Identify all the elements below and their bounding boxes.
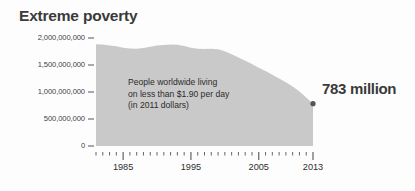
chart-annotation: People worldwide living on less than $1.… [128,77,229,112]
y-axis-tick-label: 2,000,000,000 [11,33,85,42]
y-axis-ticks [88,38,94,146]
y-axis-tick-label: 1,000,000,000 [11,87,85,96]
x-axis [96,152,313,160]
y-axis-tick-label: 1,500,000,000 [11,60,85,69]
x-axis-tick-label: 2005 [249,162,269,172]
annotation-line-2: on less than $1.90 per day [128,89,229,101]
endpoint-marker-dot [310,101,315,106]
callout-value-label: 783 million [322,80,396,97]
chart-figure: Extreme poverty 0500,000,0001,000,000,00… [0,0,415,191]
x-axis-tick-label: 2013 [303,162,323,172]
annotation-line-3: (in 2011 dollars) [128,100,229,112]
x-axis-tick-label: 1985 [113,162,133,172]
x-axis-tick-label: 1995 [181,162,201,172]
y-axis-tick-label: 500,000,000 [11,114,85,123]
annotation-line-1: People worldwide living [128,77,229,89]
y-axis-tick-label: 0 [11,141,85,150]
